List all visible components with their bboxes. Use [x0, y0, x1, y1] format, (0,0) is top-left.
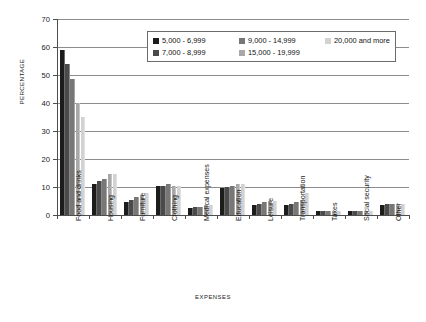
bar-group [124, 19, 149, 215]
y-axis-tick-mark [53, 187, 57, 188]
bar [124, 202, 129, 215]
y-axis-line [57, 19, 58, 216]
y-axis-tick-label: 0 [28, 211, 50, 220]
x-axis-tick-label: Social security [364, 175, 371, 221]
legend-item[interactable]: 15,000 - 19,999 [239, 48, 325, 57]
y-axis-tick-mark [53, 75, 57, 76]
legend-row: 7,000 - 8,99915,000 - 19,999 [153, 48, 390, 57]
bar [161, 186, 166, 215]
y-axis-tick-label: 50 [28, 71, 50, 80]
bar [97, 181, 102, 215]
legend-item[interactable]: 5,000 - 6,999 [153, 36, 239, 45]
x-axis-tick-mark [153, 215, 154, 219]
y-axis-tick-label: 70 [28, 15, 50, 24]
x-axis-tick-mark [409, 215, 410, 219]
bar [385, 204, 390, 215]
bar [252, 205, 257, 215]
bar [220, 188, 225, 215]
y-axis-tick-label: 60 [28, 43, 50, 52]
legend-item[interactable]: 7,000 - 8,999 [153, 48, 239, 57]
bar-group [92, 19, 117, 215]
x-axis-tick-label: Taxes [332, 202, 339, 221]
legend-row: 5,000 - 6,9999,000 - 14,99920,000 and mo… [153, 36, 390, 45]
bar [156, 186, 161, 215]
x-axis-tick-label: Furniture [140, 193, 147, 221]
x-axis-tick-mark [249, 215, 250, 219]
x-axis-tick-label: Housing [108, 195, 115, 221]
x-axis-tick-label: Leisure [268, 198, 275, 221]
legend-swatch-icon [239, 50, 245, 56]
bar-chart: PERCENTAGE EXPENSES 5,000 - 6,9999,000 -… [0, 0, 426, 322]
bar [289, 204, 294, 215]
bar [257, 204, 262, 215]
legend-label: 20,000 and more [334, 36, 390, 45]
x-axis-title: EXPENSES [0, 294, 426, 300]
x-axis-tick-mark [185, 215, 186, 219]
legend-swatch-icon [153, 50, 159, 56]
x-axis-tick-mark [121, 215, 122, 219]
x-axis-tick-label: Other [396, 203, 403, 221]
legend-swatch-icon [239, 38, 245, 44]
y-axis-tick-label: 10 [28, 183, 50, 192]
legend-label: 9,000 - 14,999 [248, 36, 296, 45]
bar [380, 205, 385, 215]
y-axis-tick-mark [53, 19, 57, 20]
x-axis-tick-mark [313, 215, 314, 219]
y-axis-tick-label: 40 [28, 99, 50, 108]
x-axis-tick-mark [345, 215, 346, 219]
bar [225, 187, 230, 215]
x-axis-tick-label: Education [236, 189, 243, 221]
x-axis-tick-mark [281, 215, 282, 219]
bar [92, 184, 97, 215]
y-axis-tick-label: 30 [28, 127, 50, 136]
y-axis-tick-mark [53, 131, 57, 132]
y-axis-tick-mark [53, 47, 57, 48]
legend-swatch-icon [325, 38, 331, 44]
x-axis-tick-mark [57, 215, 58, 219]
bar [129, 200, 134, 215]
y-axis-tick-mark [53, 103, 57, 104]
bar [193, 207, 198, 215]
legend-label: 15,000 - 19,999 [248, 48, 300, 57]
bar [65, 64, 70, 215]
legend-swatch-icon [153, 38, 159, 44]
x-axis-tick-label: Food and drinks [76, 170, 83, 221]
bar [60, 50, 65, 215]
x-axis-tick-label: Medical expenses [204, 164, 211, 221]
bar [188, 208, 193, 215]
x-axis-tick-mark [217, 215, 218, 219]
legend-item[interactable]: 20,000 and more [325, 36, 390, 45]
chart-legend: 5,000 - 6,9999,000 - 14,99920,000 and mo… [147, 31, 396, 62]
legend-label: 7,000 - 8,999 [162, 48, 206, 57]
x-axis-tick-label: Clothing [172, 195, 179, 221]
bar [284, 205, 289, 215]
x-axis-tick-mark [377, 215, 378, 219]
x-axis-tick-mark [89, 215, 90, 219]
y-axis-title: PERCENTAGE [18, 91, 25, 105]
legend-label: 5,000 - 6,999 [162, 36, 206, 45]
y-axis-tick-label: 20 [28, 155, 50, 164]
y-axis-tick-mark [53, 159, 57, 160]
legend-item[interactable]: 9,000 - 14,999 [239, 36, 325, 45]
x-axis-tick-label: Transportation [300, 176, 307, 221]
